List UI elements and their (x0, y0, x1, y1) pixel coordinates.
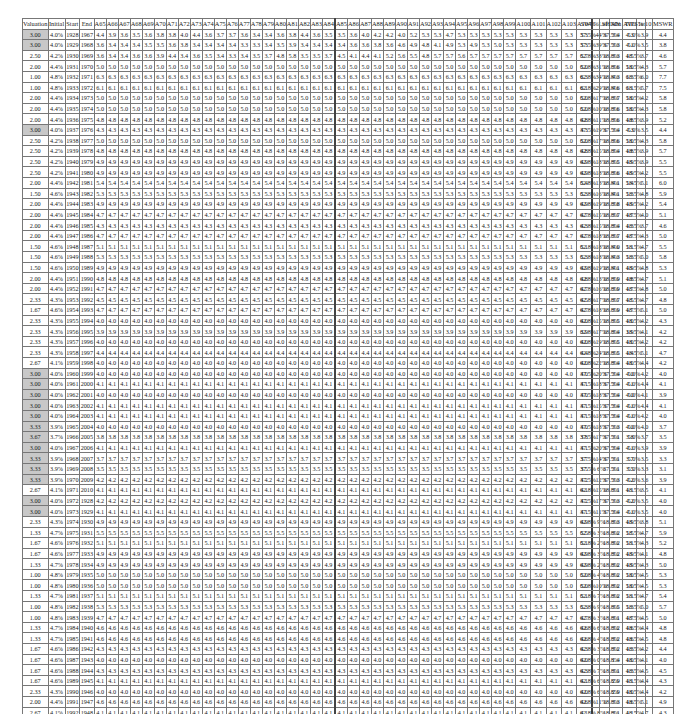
initial-rate-cell: 4.0% (48, 506, 65, 517)
age-value-cell: 5.0 (347, 580, 359, 591)
sw-cell: 37.5% (577, 400, 600, 411)
age-value-cell: 4.8 (262, 114, 274, 125)
age-value-cell: 3.9 (546, 326, 561, 337)
age-value-cell: 4.7 (480, 305, 492, 316)
start-year-cell: 1970 (65, 474, 80, 485)
spian-cell: 18.8% (600, 177, 623, 188)
age-value-cell: 4.0 (561, 336, 576, 347)
tips-cell: 18.5% (623, 485, 646, 496)
sw-cell: 37.5% (577, 495, 600, 506)
valuation-cell: 1.67 (23, 654, 49, 665)
age-value-cell: 6.3 (202, 71, 214, 82)
age-value-cell: 4.0 (531, 368, 546, 379)
allocation-row: 37.5%37.5%5.0% (577, 442, 646, 453)
age-value-cell: 5.3 (238, 188, 250, 199)
age-value-cell: 5.0 (420, 580, 432, 591)
tips-cell: 18.5% (623, 294, 646, 305)
age-value-cell: 4.2 (238, 495, 250, 506)
age-value-cell: 4.0 (468, 315, 480, 326)
age-value-cell: 4.0 (432, 315, 444, 326)
age-value-cell: 4.4 (468, 347, 480, 358)
age-value-cell: 4.3 (214, 124, 226, 135)
age-value-cell: 5.0 (504, 61, 516, 72)
age-value-cell: 6.1 (322, 82, 335, 93)
age-value-cell: 4.3 (142, 644, 154, 655)
end-year-cell: 2008 (80, 463, 95, 474)
age-value-cell: 4.7 (322, 230, 335, 241)
age-value-cell: 5.3 (274, 601, 286, 612)
age-value-cell: 4.9 (310, 559, 322, 570)
age-value-cell: 4.0 (335, 358, 348, 369)
age-value-cell: 5.0 (492, 40, 504, 51)
age-value-cell: 4.7 (335, 209, 348, 220)
age-value-cell: 4.0 (118, 421, 130, 432)
valuation-cell: 3.33 (23, 463, 49, 474)
age-value-cell: 3.7 (106, 453, 118, 464)
age-value-cell: 5.1 (322, 538, 335, 549)
allocation-row: 62.8%18.8%18.5% (577, 548, 646, 559)
header-age-a80: A80 (274, 19, 286, 30)
header-age-a74: A74 (202, 19, 214, 30)
age-value-cell: 4.9 (383, 262, 395, 273)
age-value-cell: 5.1 (561, 538, 576, 549)
valuation-cell: 1.33 (23, 527, 49, 538)
valuation-cell: 1.33 (23, 591, 49, 602)
age-value-cell: 4.0 (516, 358, 531, 369)
age-value-cell: 4.9 (492, 262, 504, 273)
age-value-cell: 4.8 (504, 114, 516, 125)
end-year-cell: 1979 (80, 156, 95, 167)
age-value-cell: 5.3 (531, 252, 546, 263)
valuation-cell: 3.00 (23, 379, 49, 390)
age-value-cell: 4.0 (383, 336, 395, 347)
mswr-cell: 4.8 (652, 622, 673, 633)
header-age-a87: A87 (359, 19, 371, 30)
sw-cell: 37.5% (577, 421, 600, 432)
age-value-cell: 4.3 (383, 124, 395, 135)
age-value-cell: 4.9 (298, 262, 310, 273)
age-value-cell: 5.0 (420, 135, 432, 146)
age-value-cell: 4.0 (250, 654, 262, 665)
age-value-cell: 4.6 (178, 697, 190, 708)
age-value-cell: 5.0 (561, 103, 576, 114)
age-value-cell: 5.0 (94, 580, 106, 591)
end-year-cell: 1970 (80, 61, 95, 72)
age-value-cell: 5.3 (226, 601, 238, 612)
age-value-cell: 5.0 (190, 93, 202, 104)
age-value-cell: 3.5 (383, 463, 395, 474)
age-value-cell: 4.7 (274, 230, 286, 241)
age-value-cell: 4.5 (492, 294, 504, 305)
initial-rate-cell: 4.0% (48, 368, 65, 379)
age-value-cell: 6.3 (166, 71, 178, 82)
age-value-cell: 3.9 (154, 50, 166, 61)
age-value-cell: 5.0 (154, 580, 166, 591)
mswr-cell: 6.0 (652, 177, 673, 188)
age-value-cell: 5.0 (94, 135, 106, 146)
end-year-cell: 1990 (80, 273, 95, 284)
age-value-cell: 4.7 (480, 209, 492, 220)
age-value-cell: 5.3 (335, 601, 348, 612)
spian-cell: 18.8% (600, 103, 623, 114)
age-value-cell: 3.8 (262, 432, 274, 443)
age-value-cell: 4.1 (262, 442, 274, 453)
age-value-cell: 5.7 (468, 50, 480, 61)
mswr-cell: 3.3 (652, 453, 673, 464)
sw-cell: 37.5% (577, 432, 600, 443)
header-age-a91: A91 (408, 19, 420, 30)
age-value-cell: 4.9 (310, 516, 322, 527)
age-value-cell: 3.8 (190, 432, 202, 443)
age-value-cell: 4.7 (432, 209, 444, 220)
age-value-cell: 4.6 (274, 633, 286, 644)
age-value-cell: 4.7 (444, 209, 456, 220)
age-value-cell: 4.1 (444, 379, 456, 390)
age-value-cell: 3.5 (166, 463, 178, 474)
age-value-cell: 4.0 (456, 358, 468, 369)
age-value-cell: 4.9 (480, 156, 492, 167)
mswr-cell: 5.0 (652, 283, 673, 294)
age-value-cell: 5.1 (190, 538, 202, 549)
age-value-cell: 4.6 (456, 697, 468, 708)
age-value-cell: 4.3 (130, 124, 142, 135)
initial-rate-cell: 4.1% (48, 707, 65, 714)
age-value-cell: 3.7 (166, 453, 178, 464)
age-value-cell: 4.1 (178, 675, 190, 686)
age-value-cell: 4.0 (432, 368, 444, 379)
